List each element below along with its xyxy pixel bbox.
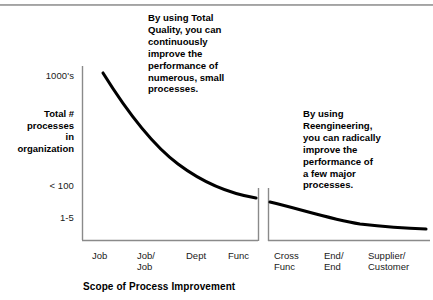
annotation-tq-line-3: continuously: [148, 36, 252, 48]
y-tick-label-high: 1000's: [8, 70, 74, 81]
curve-reengineering: [270, 202, 426, 229]
x-tick-label-end-end: End/ End: [324, 250, 344, 272]
x-tick-label-dept: Dept: [186, 250, 206, 261]
x-tick-end-end-line-2: End: [324, 261, 344, 272]
annotation-tq-line-5: performance of: [148, 60, 252, 72]
y-axis-title-line-1: Total #: [2, 108, 74, 120]
x-tick-job-line-1: Job: [92, 250, 107, 261]
x-tick-func-line-1: Func: [228, 250, 249, 261]
annotation-total-quality: By using Total Quality, you can continuo…: [148, 12, 252, 95]
x-tick-label-job: Job: [92, 250, 107, 261]
annotation-re-line-1: By using: [303, 108, 415, 120]
x-tick-end-end-line-1: End/: [324, 250, 344, 261]
y-axis-title: Total # processes in organization: [2, 108, 74, 154]
annotation-re-line-7: processes.: [303, 179, 415, 191]
x-tick-label-cross-func: Cross Func: [274, 250, 299, 272]
annotation-re-line-4: improve the: [303, 144, 415, 156]
annotation-re-line-3: you can radically: [303, 132, 415, 144]
y-axis-title-line-3: in: [2, 131, 74, 143]
annotation-re-line-6: a few major: [303, 168, 415, 180]
x-tick-supplier-line-2: Customer: [368, 261, 409, 272]
annotation-tq-line-1: By using Total: [148, 12, 252, 24]
y-axis-title-line-2: processes: [2, 120, 74, 132]
x-tick-label-supplier-customer: Supplier/ Customer: [368, 250, 409, 272]
annotation-tq-line-4: improve the: [148, 48, 252, 60]
x-tick-job-job-line-1: Job/: [137, 250, 155, 261]
x-tick-cross-func-line-2: Func: [274, 261, 299, 272]
x-tick-job-job-line-2: Job: [137, 261, 155, 272]
y-tick-label-mid: < 100: [8, 180, 74, 191]
x-axis-title: Scope of Process Improvement: [83, 281, 235, 292]
annotation-re-line-5: performance of: [303, 156, 415, 168]
annotation-re-line-2: Reengineering,: [303, 120, 415, 132]
process-improvement-chart: 1000's < 100 1-5 Total # processes in or…: [0, 0, 433, 300]
x-tick-label-job-job: Job/ Job: [137, 250, 155, 272]
y-axis-title-line-4: organization: [2, 143, 74, 155]
x-tick-label-func: Func: [228, 250, 249, 261]
annotation-tq-line-6: numerous, small: [148, 72, 252, 84]
x-tick-supplier-line-1: Supplier/: [368, 250, 409, 261]
annotation-reengineering: By using Reengineering, you can radicall…: [303, 108, 415, 191]
y-tick-label-low: 1-5: [8, 212, 74, 223]
x-tick-dept-line-1: Dept: [186, 250, 206, 261]
annotation-tq-line-7: processes.: [148, 83, 252, 95]
x-tick-cross-func-line-1: Cross: [274, 250, 299, 261]
annotation-tq-line-2: Quality, you can: [148, 24, 252, 36]
